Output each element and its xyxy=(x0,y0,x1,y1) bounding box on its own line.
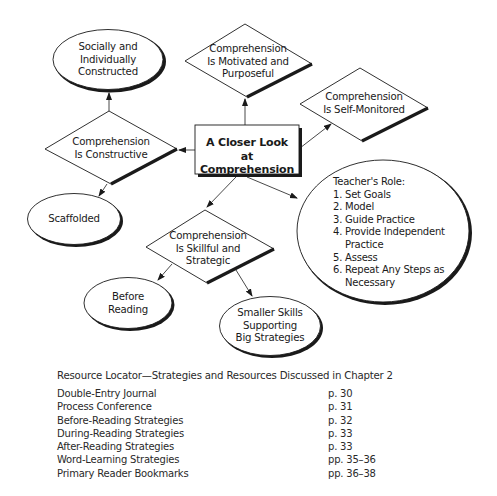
step-number: 4. xyxy=(333,226,345,239)
label-line: Comprehension xyxy=(61,136,161,149)
teacher-step: 4.Provide Independent xyxy=(333,226,445,239)
teacher-step: 5.Assess xyxy=(333,252,445,265)
label-constructive: Comprehension Is Constructive xyxy=(61,136,161,161)
label-line: Is Skillful and xyxy=(158,243,258,256)
resource-name: Process Conference xyxy=(57,400,328,413)
resource-name: Primary Reader Bookmarks xyxy=(57,467,328,480)
resource-row: Before-Reading Strategiesp. 32 xyxy=(57,414,477,427)
step-text: Necessary xyxy=(345,277,395,290)
label-line: Before xyxy=(78,291,178,304)
teacher-step: 2.Model xyxy=(333,201,445,214)
resource-page: p. 32 xyxy=(328,414,352,427)
resource-row: During-Reading Strategiesp. 33 xyxy=(57,427,477,440)
resource-locator: Resource Locator—Strategies and Resource… xyxy=(57,370,477,480)
step-text: Model xyxy=(345,201,374,214)
resource-row: After-Reading Strategiesp. 33 xyxy=(57,440,477,453)
resource-name: Before-Reading Strategies xyxy=(57,414,328,427)
label-line: Is Motivated and xyxy=(198,56,298,69)
resource-row: Word-Learning Strategiespp. 35–36 xyxy=(57,453,477,466)
label-line: Comprehension xyxy=(314,91,414,104)
label-socially: Socially and Individually Constructed xyxy=(58,41,158,79)
connector-skillful-to-smaller xyxy=(236,270,252,296)
teacher-role-list: Teacher's Role: 1.Set Goals 2.Model 3.Gu… xyxy=(333,176,445,289)
step-number: 1. xyxy=(333,189,345,202)
teacher-role-title: Teacher's Role: xyxy=(333,176,445,189)
resource-name: Double-Entry Journal xyxy=(57,387,328,400)
step-number: 3. xyxy=(333,214,345,227)
label-line: Is Constructive xyxy=(61,149,161,162)
connector-center-to-skillful xyxy=(207,177,236,207)
step-text: Repeat Any Steps as xyxy=(345,264,444,277)
step-number: 2. xyxy=(333,201,345,214)
label-self-monitored: Comprehension Is Self-Monitored xyxy=(314,91,414,116)
label-skillful: Comprehension Is Skillful and Strategic xyxy=(158,230,258,268)
resource-name: After-Reading Strategies xyxy=(57,440,328,453)
connector-constructive-to-scaffolded xyxy=(99,184,107,196)
label-motivated: Comprehension Is Motivated and Purposefu… xyxy=(198,43,298,81)
resource-page: p. 33 xyxy=(328,440,352,453)
label-line: A Closer Look xyxy=(195,136,299,150)
step-number xyxy=(333,239,345,252)
resource-name: During-Reading Strategies xyxy=(57,427,328,440)
label-line: Smaller Skills xyxy=(220,307,320,320)
teacher-step: Practice xyxy=(333,239,445,252)
resource-page: pp. 35–36 xyxy=(328,453,376,466)
resource-page: pp. 36–38 xyxy=(328,467,376,480)
label-line: Supporting xyxy=(220,320,320,333)
teacher-step: 1.Set Goals xyxy=(333,189,445,202)
step-text: Assess xyxy=(345,252,378,265)
label-line: Reading xyxy=(78,304,178,317)
step-text: Practice xyxy=(345,239,383,252)
label-line: Purposeful xyxy=(198,68,298,81)
connector-center-to-teacher xyxy=(247,177,297,198)
label-before-reading: Before Reading xyxy=(78,291,178,316)
step-number: 5. xyxy=(333,252,345,265)
teacher-step: 6.Repeat Any Steps as xyxy=(333,264,445,277)
step-number xyxy=(333,277,345,290)
label-scaffolded: Scaffolded xyxy=(24,213,124,226)
teacher-step: Necessary xyxy=(333,277,445,290)
step-text: Provide Independent xyxy=(345,226,445,239)
label-line: at Comprehension xyxy=(195,150,299,177)
label-line: Individually xyxy=(58,54,158,67)
label-line: Comprehension xyxy=(158,230,258,243)
resource-page: p. 31 xyxy=(328,400,352,413)
label-line: Constructed xyxy=(58,66,158,79)
resource-locator-heading: Resource Locator—Strategies and Resource… xyxy=(57,370,477,381)
step-text: Set Goals xyxy=(345,189,391,202)
step-text: Guide Practice xyxy=(345,214,415,227)
label-line: Comprehension xyxy=(198,43,298,56)
label-smaller-skills: Smaller Skills Supporting Big Strategies xyxy=(220,307,320,345)
resource-row: Double-Entry Journalp. 30 xyxy=(57,387,477,400)
resource-page: p. 33 xyxy=(328,427,352,440)
connector-center-to-self-monitored xyxy=(300,124,331,148)
label-line: Is Self-Monitored xyxy=(314,104,414,117)
concept-map: Socially and Individually Constructed Co… xyxy=(0,0,497,360)
label-line: Strategic xyxy=(158,255,258,268)
resource-row: Process Conferencep. 31 xyxy=(57,400,477,413)
label-line: Socially and xyxy=(58,41,158,54)
resource-row: Primary Reader Bookmarkspp. 36–38 xyxy=(57,467,477,480)
resource-page: p. 30 xyxy=(328,387,352,400)
teacher-step: 3.Guide Practice xyxy=(333,214,445,227)
label-line: Scaffolded xyxy=(24,213,124,226)
resource-name: Word-Learning Strategies xyxy=(57,453,328,466)
label-line: Big Strategies xyxy=(220,332,320,345)
step-number: 6. xyxy=(333,264,345,277)
label-center: A Closer Look at Comprehension xyxy=(195,136,299,177)
